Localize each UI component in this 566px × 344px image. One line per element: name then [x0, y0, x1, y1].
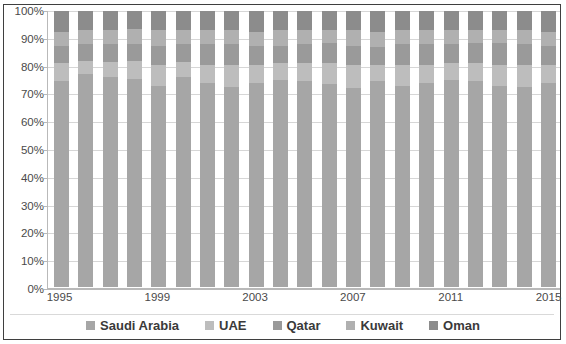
bar-segment: [200, 30, 215, 44]
bar-segment: [224, 11, 239, 30]
bar-segment: [468, 11, 483, 30]
bar-segment: [346, 11, 361, 30]
bar-segment: [395, 11, 410, 30]
bar-segment: [346, 30, 361, 45]
bar-segment: [54, 81, 69, 287]
x-axis-label: 2011: [438, 291, 463, 303]
x-axis-label: 2007: [340, 291, 366, 303]
bar-segment: [370, 81, 385, 287]
bar-segment: [419, 65, 434, 83]
bar-column: [346, 11, 361, 287]
bar-segment: [322, 11, 337, 30]
bar-segment: [78, 11, 93, 30]
y-axis-label: 20%: [0, 227, 44, 239]
y-axis-label: 90%: [0, 33, 44, 45]
bar-segment: [492, 43, 507, 65]
bar-segment: [492, 30, 507, 42]
legend-label: Saudi Arabia: [100, 318, 179, 333]
bar-segment: [468, 63, 483, 81]
y-axis-label: 100%: [0, 5, 44, 17]
bar-segment: [151, 86, 166, 287]
bar-column: [78, 11, 93, 287]
y-axis-label: 0%: [0, 283, 44, 295]
bar-segment: [224, 65, 239, 87]
bar-segment: [78, 30, 93, 44]
bar-segment: [224, 87, 239, 287]
bar-segment: [54, 46, 69, 64]
legend-item[interactable]: Qatar: [273, 318, 321, 333]
bar-segment: [419, 11, 434, 30]
legend-item[interactable]: Saudi Arabia: [86, 318, 179, 333]
bar-segment: [541, 11, 556, 32]
y-axis-label: 40%: [0, 172, 44, 184]
bar-segment: [468, 43, 483, 64]
bar-segment: [419, 44, 434, 65]
y-axis-tick: [44, 122, 48, 123]
y-axis-tick: [44, 39, 48, 40]
legend-item[interactable]: Oman: [429, 318, 480, 333]
x-axis-label: 1999: [145, 291, 171, 303]
bar-segment: [444, 63, 459, 80]
legend-item[interactable]: UAE: [205, 318, 246, 333]
y-axis-label: 70%: [0, 88, 44, 100]
bar-segment: [517, 30, 532, 44]
bar-segment: [346, 65, 361, 88]
bar-column: [176, 11, 191, 287]
legend-item[interactable]: Kuwait: [346, 318, 403, 333]
bar-segment: [151, 46, 166, 65]
y-axis-tick: [44, 94, 48, 95]
bar-column: [492, 11, 507, 287]
bar-column: [249, 11, 264, 287]
bar-segment: [541, 46, 556, 65]
y-axis-tick: [44, 11, 48, 12]
bar-column: [370, 11, 385, 287]
bar-segment: [395, 44, 410, 65]
bar-segment: [419, 83, 434, 287]
bar-segment: [395, 30, 410, 44]
bar-segment: [127, 79, 142, 287]
legend-swatch-icon: [429, 321, 438, 330]
y-axis-tick: [44, 233, 48, 234]
bar-column: [419, 11, 434, 287]
y-axis-tick: [44, 150, 48, 151]
bar-segment: [200, 44, 215, 65]
bar-segment: [517, 44, 532, 65]
bar-segment: [297, 44, 312, 63]
y-axis-tick: [44, 261, 48, 262]
chart-screenshot: 0%10%20%30%40%50%60%70%80%90%100% 199519…: [0, 0, 566, 344]
bar-segment: [297, 63, 312, 81]
legend-divider: [10, 314, 554, 315]
legend-swatch-icon: [273, 321, 282, 330]
bar-segment: [517, 65, 532, 87]
chart-legend: Saudi ArabiaUAEQatarKuwaitOman: [0, 318, 566, 333]
bar-segment: [200, 11, 215, 30]
bar-segment: [151, 30, 166, 45]
y-axis-tick: [44, 67, 48, 68]
bar-segment: [103, 30, 118, 44]
bar-column: [273, 11, 288, 287]
bar-segment: [176, 62, 191, 77]
bar-segment: [444, 44, 459, 63]
bar-segment: [541, 32, 556, 46]
bar-segment: [370, 65, 385, 82]
bar-segment: [151, 11, 166, 30]
bar-segment: [468, 30, 483, 42]
bar-column: [54, 11, 69, 287]
x-axis-labels: 199519992003200720112015: [47, 291, 560, 311]
bar-segment: [224, 30, 239, 44]
bar-segment: [200, 65, 215, 83]
x-axis-label: 2015: [536, 291, 562, 303]
bar-segment: [273, 46, 288, 64]
y-axis-tick: [44, 289, 48, 290]
bar-column: [200, 11, 215, 287]
bar-segment: [103, 62, 118, 77]
bar-segment: [78, 44, 93, 61]
bar-segment: [273, 80, 288, 287]
legend-swatch-icon: [86, 321, 95, 330]
bar-segment: [176, 11, 191, 30]
bar-segment: [273, 11, 288, 30]
bar-segment: [78, 74, 93, 287]
bar-column: [127, 11, 142, 287]
bar-segment: [322, 30, 337, 42]
bar-column: [468, 11, 483, 287]
